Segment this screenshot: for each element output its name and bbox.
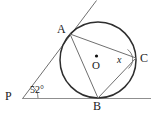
label-point-p: P: [5, 90, 12, 102]
label-point-b: B: [93, 100, 101, 112]
center-point-dot: [95, 54, 98, 57]
geometry-canvas: [0, 0, 157, 117]
chord-a-to-c: [70, 34, 136, 58]
label-angle-x: x: [117, 55, 121, 65]
label-center-o: O: [92, 60, 100, 71]
label-angle-p: 52°: [30, 85, 44, 95]
label-point-c: C: [140, 52, 148, 64]
label-point-a: A: [57, 23, 66, 35]
geometry-figure: A B C P O 52° x: [0, 0, 157, 117]
